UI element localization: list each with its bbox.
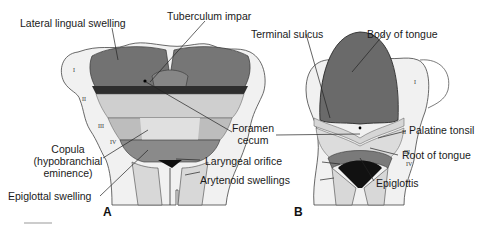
label-epiglottis: Epiglottis [376, 177, 419, 189]
label-copula-line1: Copula [26, 143, 110, 155]
svg-text:III: III [98, 123, 104, 129]
label-foramen-cecum-line1: Foramen [230, 122, 276, 134]
figure-number-fragment [24, 222, 52, 224]
label-arytenoid-swellings: Arytenoid swellings [200, 174, 290, 186]
label-foramen-cecum: Foramen cecum [230, 122, 276, 146]
label-laryngeal-orifice: Laryngeal orifice [205, 155, 282, 167]
label-foramen-cecum-line2: cecum [230, 134, 276, 146]
panel-letter-b: B [294, 205, 303, 219]
svg-text:IV: IV [110, 139, 117, 145]
svg-text:II: II [82, 96, 86, 102]
label-copula: Copula (hypobranchial eminence) [26, 143, 110, 179]
svg-text:IV: IV [406, 161, 413, 167]
label-root-of-tongue: Root of tongue [402, 149, 471, 161]
panel-letter-a: A [103, 205, 112, 219]
label-terminal-sulcus: Terminal sulcus [251, 28, 323, 40]
svg-text:I: I [414, 79, 416, 85]
label-body-of-tongue: Body of tongue [367, 28, 438, 40]
label-palatine-tonsil: Palatine tonsil [409, 124, 474, 136]
label-copula-line2: (hypobranchial [26, 155, 110, 167]
label-copula-line3: eminence) [26, 167, 110, 179]
svg-text:I: I [73, 67, 75, 73]
label-tuberculum-impar: Tuberculum impar [167, 10, 251, 22]
label-epiglottal-swelling: Epiglottal swelling [8, 190, 91, 202]
label-lateral-lingual-swelling: Lateral lingual swelling [20, 17, 126, 29]
